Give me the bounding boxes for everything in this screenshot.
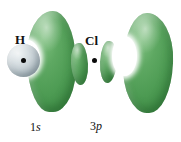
orbital-overlap-figure: H Cl 1s 3p: [0, 0, 181, 142]
caption-1s-letter: s: [36, 120, 41, 134]
lobe-right-concave-notch: [112, 36, 137, 76]
chlorine-nucleus-dot-icon: [92, 58, 97, 63]
caption-3p-letter: p: [96, 119, 102, 133]
atom-label-chlorine: Cl: [85, 34, 98, 47]
orbital-caption-1s: 1s: [30, 121, 41, 133]
orbital-caption-3p: 3p: [90, 120, 102, 132]
atom-label-hydrogen: H: [15, 33, 25, 46]
hydrogen-nucleus-dot-icon: [21, 58, 26, 63]
